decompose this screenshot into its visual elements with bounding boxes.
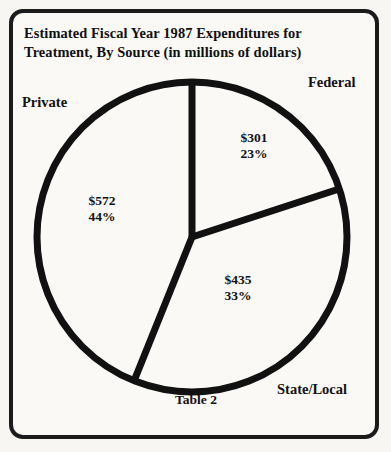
pie-value-federal: $301 23% (226, 130, 282, 162)
pie-label-state-local: State/Local (277, 381, 347, 397)
pie-value-private-amount: $572 (74, 193, 130, 209)
pie-value-federal-amount: $301 (226, 130, 282, 146)
pie-divider-federal-state (192, 189, 339, 237)
pie-value-state-local: $435 33% (210, 272, 266, 304)
pie-label-private: Private (22, 94, 67, 110)
pie-value-private-percent: 44% (74, 209, 130, 225)
pie-divider-state-private (134, 237, 192, 381)
pie-value-state-local-percent: 33% (210, 288, 266, 304)
pie-value-private: $572 44% (74, 193, 130, 225)
pie-value-federal-percent: 23% (226, 146, 282, 162)
pie-label-federal: Federal (308, 74, 356, 90)
figure-panel: Estimated Fiscal Year 1987 Expenditures … (0, 0, 391, 452)
figure-caption: Table 2 (175, 392, 217, 408)
pie-value-state-local-amount: $435 (210, 272, 266, 288)
